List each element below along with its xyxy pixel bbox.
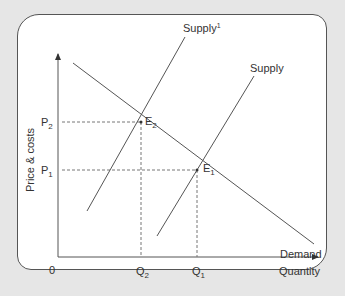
supply-curve (157, 76, 254, 236)
e1-label: E1 (203, 162, 215, 177)
supply1-curve (87, 37, 185, 211)
p2-label: P2 (41, 116, 53, 131)
e1-point (196, 169, 199, 172)
p1-label: P1 (41, 164, 53, 179)
origin-label: 0 (49, 264, 55, 276)
q2-label: Q2 (136, 265, 150, 280)
e2-point (140, 121, 143, 124)
e2-label: E2 (145, 115, 157, 130)
demand-curve (73, 63, 314, 244)
supply1-label: Supply1 (183, 22, 221, 34)
x-axis-label: Quantity (279, 265, 320, 277)
q1-label: Q1 (192, 265, 206, 280)
supply-label: Supply (250, 62, 284, 74)
y-axis-label: Price & costs (24, 127, 36, 192)
supply-demand-chart: Supply1 Supply Demand E2 E1 P2 P1 Q2 Q1 … (0, 0, 345, 296)
demand-label: Demand (280, 248, 322, 260)
